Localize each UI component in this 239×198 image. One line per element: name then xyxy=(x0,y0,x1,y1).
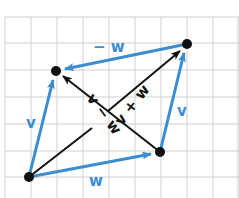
label-v-right: v xyxy=(177,102,187,120)
point-top-right xyxy=(182,39,192,49)
point-bottom-right xyxy=(155,147,165,157)
vector-diagram: v v w − w v + w v − w xyxy=(0,0,239,198)
point-origin xyxy=(24,172,34,182)
point-top-left xyxy=(51,66,61,76)
label-neg-w-top: − w xyxy=(93,38,125,56)
label-w-bottom: w xyxy=(89,172,103,190)
label-v-left: v xyxy=(26,114,36,132)
